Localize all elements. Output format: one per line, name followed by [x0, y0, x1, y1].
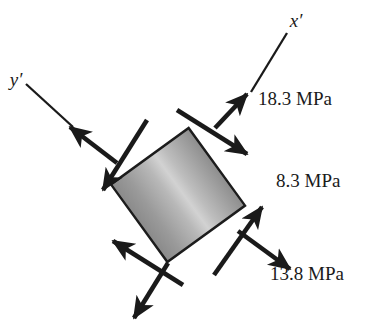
y-prime-axis-line: [26, 84, 73, 127]
y-prime-axis-label: y′: [8, 69, 23, 90]
stress-element-figure: x′ y′ 18.3 MPa 8.3 MPa 13.8 MPa: [0, 0, 391, 331]
x-prime-axis-line: [251, 33, 287, 92]
x-prime-axis-label: x′: [289, 10, 303, 31]
normal-arrow-top-left: [70, 127, 117, 163]
stress-label-18-3-mpa: 18.3 MPa: [258, 88, 332, 109]
normal-arrow-top-right: [215, 94, 247, 128]
stress-label-13-8-mpa: 13.8 MPa: [270, 263, 344, 284]
y-prime-axis: [26, 84, 73, 127]
figure-canvas: x′ y′ 18.3 MPa 8.3 MPa 13.8 MPa: [0, 0, 391, 331]
stress-label-8-3-mpa: 8.3 MPa: [276, 170, 341, 191]
x-prime-axis: [251, 33, 287, 92]
